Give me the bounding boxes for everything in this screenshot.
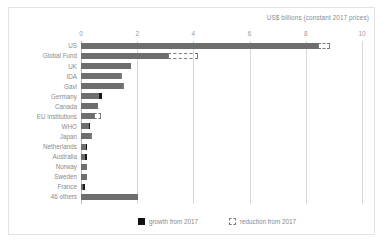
legend-label: reduction from 2017: [240, 218, 296, 225]
gridline: [362, 41, 363, 204]
y-category-label: Norway: [56, 163, 77, 170]
bar-segment-base: [81, 63, 131, 69]
y-category-label: UK: [68, 63, 77, 70]
legend-swatch-reduction-icon: [229, 218, 236, 225]
legend-swatch-growth-icon: [138, 218, 145, 225]
bar-segment-base: [81, 164, 87, 170]
x-tick-label: 6: [240, 30, 260, 37]
y-category-label: US: [68, 42, 77, 49]
bar-segment-base: [81, 43, 318, 49]
gridline: [137, 41, 138, 204]
x-tick-label: 2: [127, 30, 147, 37]
y-category-label: 46 others: [51, 193, 77, 200]
gridline: [306, 41, 307, 204]
bar-segment-base: [81, 103, 98, 109]
bar-segment-reduction: [94, 113, 102, 119]
bar-chart: US$ billions (constant 2017 prices) 0246…: [0, 0, 385, 245]
bar-segment-reduction: [120, 73, 122, 79]
bar-segment-reduction: [168, 53, 198, 59]
bar-segment-base: [81, 133, 90, 139]
y-category-label: Japan: [60, 133, 77, 140]
y-category-label: IDA: [67, 73, 78, 80]
bar-segment-base: [81, 113, 94, 119]
x-tick-label: 8: [296, 30, 316, 37]
y-category-label: Australia: [53, 153, 78, 160]
x-tick-label: 4: [183, 30, 203, 37]
bar-segment-growth: [89, 123, 90, 129]
bar-segment-base: [81, 174, 87, 180]
x-tick-label: 10: [352, 30, 372, 37]
y-category-label: Canada: [55, 103, 77, 110]
gridline: [193, 41, 194, 204]
x-tick-label: 0: [71, 30, 91, 37]
bar-segment-reduction: [318, 43, 329, 49]
bar-segment-growth: [83, 184, 84, 190]
y-category-label: EU institutions: [37, 113, 77, 120]
bar-segment-reduction: [90, 133, 92, 139]
bar-segment-growth: [85, 154, 86, 160]
bar-segment-growth: [86, 144, 87, 150]
bar-segment-reduction: [122, 83, 124, 89]
bar-segment-base: [81, 83, 122, 89]
bar-segment-base: [81, 194, 138, 200]
bar-segment-base: [81, 73, 120, 79]
bar-segment-growth: [99, 93, 102, 99]
bar-segment-base: [81, 53, 168, 59]
y-category-label: Global Fund: [43, 52, 77, 59]
y-category-label: Sweden: [54, 173, 77, 180]
y-category-label: Germany: [51, 93, 77, 100]
legend-label: growth from 2017: [149, 218, 198, 225]
gridline: [250, 41, 251, 204]
y-category-label: Gavi: [64, 83, 77, 90]
y-category-label: Netherlands: [43, 143, 77, 150]
axis-title: US$ billions (constant 2017 prices): [267, 14, 369, 21]
y-category-label: France: [57, 183, 77, 190]
y-category-label: WHO: [62, 123, 77, 130]
